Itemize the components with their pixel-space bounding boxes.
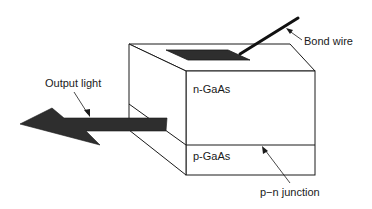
label-p-gaas: p-GaAs [193, 150, 231, 162]
label-bond-wire: Bond wire [304, 35, 353, 47]
led-diagram: Bond wire Output light n-GaAs p-GaAs p−n… [0, 0, 372, 209]
label-n-gaas: n-GaAs [193, 83, 231, 95]
label-output-light: Output light [45, 77, 101, 89]
leader-arrowhead [84, 109, 90, 117]
label-pn-junction: p−n junction [260, 186, 320, 198]
